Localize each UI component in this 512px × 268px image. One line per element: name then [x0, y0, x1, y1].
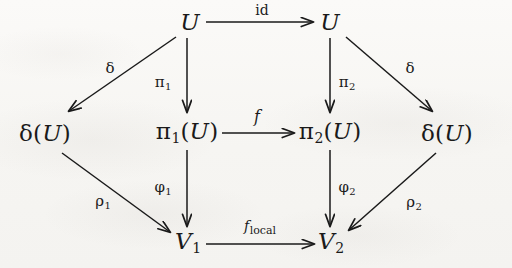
arrow-delta-right [346, 37, 432, 111]
arrow-label-phi1-sub: 1 [165, 186, 171, 197]
node-pi1-u-arg: U [190, 118, 210, 144]
node-v1-base: V [175, 228, 192, 254]
arrow-label-delta-right: δ [405, 61, 414, 76]
node-v1: V1 [175, 230, 201, 255]
arrow-label-delta-right-text: δ [405, 59, 414, 77]
arrow-label-delta-left: δ [105, 61, 114, 76]
arrow-label-id-text: id [255, 2, 268, 18]
arrow-label-rho2-base: ρ [406, 193, 415, 211]
diagram-canvas: U --> pi2(U) --> V2 --> U [0, 0, 512, 268]
arrow-label-pi2-base: π [339, 73, 349, 91]
arrow-label-delta-left-text: δ [105, 59, 114, 77]
node-v2-base: V [318, 228, 335, 254]
arrow-label-phi2-base: φ [338, 178, 349, 196]
arrow-label-rho1: ρ1 [95, 194, 111, 211]
arrow-label-phi2-sub: 2 [349, 186, 355, 197]
node-delta-u-right-greek: δ [421, 120, 435, 146]
arrow-label-flocal: flocal [244, 219, 276, 236]
arrow-rho2 [349, 153, 436, 230]
node-delta-u-left-arg: U [42, 120, 62, 146]
node-delta-u-right: δ(U) [421, 122, 473, 145]
node-pi2-u-arg: U [333, 118, 353, 144]
node-pi2-u-sub: 2 [314, 131, 323, 147]
node-u-top-right-label: U [320, 9, 340, 35]
node-pi1-u-greek: π [156, 118, 171, 144]
node-v2-sub: 2 [335, 241, 344, 257]
node-u-top-right: U [320, 11, 340, 34]
arrow-label-id: id [255, 3, 268, 17]
arrow-label-pi1-base: π [155, 73, 165, 91]
arrow-label-pi1: π1 [155, 75, 172, 92]
node-delta-u-left-greek: δ [19, 120, 33, 146]
arrow-label-flocal-base: f [244, 218, 249, 234]
node-u-top-left: U [180, 11, 200, 34]
arrow-label-phi1-base: φ [154, 178, 165, 196]
arrow-label-f-text: f [254, 107, 260, 126]
arrow-label-pi2-sub: 2 [349, 81, 355, 92]
arrow-label-flocal-sub: local [250, 225, 276, 238]
node-pi1-u-sub: 1 [171, 131, 180, 147]
arrow-label-phi1: φ1 [154, 180, 171, 197]
node-v1-sub: 1 [192, 241, 201, 257]
arrow-label-rho1-base: ρ [95, 192, 104, 210]
arrow-label-rho2-sub: 2 [415, 201, 421, 212]
arrow-label-rho2: ρ2 [406, 195, 422, 212]
arrow-label-phi2: φ2 [338, 180, 355, 197]
arrow-label-pi2: π2 [339, 75, 356, 92]
node-delta-u-right-arg: U [444, 120, 464, 146]
arrow-label-rho1-sub: 1 [104, 200, 110, 211]
node-pi2-u-greek: π [299, 118, 314, 144]
node-delta-u-left: δ(U) [19, 122, 71, 145]
node-pi1-u: π1(U) [156, 120, 219, 145]
node-u-top-left-label: U [180, 9, 200, 35]
arrow-label-f: f [254, 109, 260, 125]
node-v2: V2 [318, 230, 344, 255]
node-pi2-u: π2(U) [299, 120, 362, 145]
arrow-label-pi1-sub: 1 [165, 81, 171, 92]
